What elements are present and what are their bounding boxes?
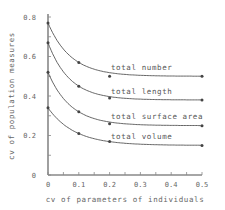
- data-point: [47, 71, 50, 74]
- data-point: [108, 75, 111, 78]
- data-point: [108, 122, 111, 125]
- x-tick-label: 0.1: [72, 181, 85, 189]
- data-point: [47, 41, 50, 44]
- curves: [47, 21, 204, 146]
- x-axis-title: cv of parameters of individuals: [46, 195, 205, 204]
- y-tick-label: 0.8: [23, 14, 36, 22]
- y-tick-label: 0.2: [23, 132, 36, 140]
- series-label: total number: [111, 63, 172, 72]
- axes: 00.20.40.60.800.10.20.30.40.5: [23, 14, 208, 190]
- data-point: [201, 75, 204, 78]
- series-label: total volume: [111, 132, 172, 141]
- data-point: [108, 96, 111, 99]
- data-point: [77, 110, 80, 113]
- line-chart: 00.20.40.60.800.10.20.30.40.5 cv of para…: [0, 0, 225, 210]
- y-tick-label: 0.4: [23, 93, 36, 101]
- y-tick-label: 0: [32, 172, 36, 180]
- labels: cv of parameters of individualscv of pop…: [7, 32, 204, 204]
- series-label: total surface area: [111, 112, 203, 121]
- data-point: [201, 124, 204, 127]
- x-tick-label: 0.4: [165, 181, 178, 189]
- data-point: [77, 85, 80, 88]
- y-axis-title: cv of population measures: [7, 32, 16, 160]
- data-point: [77, 132, 80, 135]
- x-tick-label: 0.2: [103, 181, 116, 189]
- x-tick-label: 0: [46, 181, 50, 189]
- data-point: [47, 21, 50, 24]
- y-tick-label: 0.6: [23, 53, 36, 61]
- data-point: [77, 61, 80, 64]
- series-label: total length: [111, 87, 172, 96]
- x-tick-label: 0.3: [134, 181, 147, 189]
- data-point: [201, 144, 204, 147]
- data-point: [201, 98, 204, 101]
- data-point: [47, 106, 50, 109]
- x-tick-label: 0.5: [196, 181, 209, 189]
